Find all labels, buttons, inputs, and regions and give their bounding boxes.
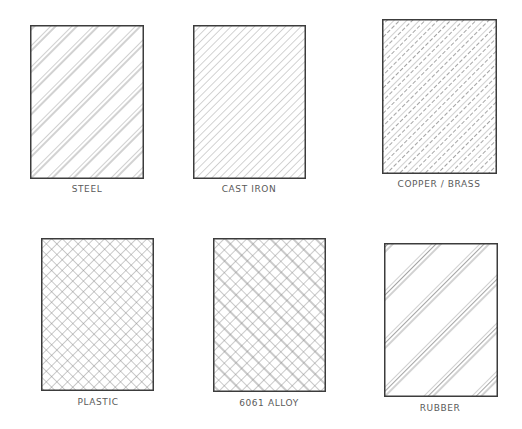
label-copper-brass: COPPER / BRASS — [398, 179, 481, 189]
label-6061-alloy: 6061 ALLOY — [239, 398, 299, 408]
label-rubber: RUBBER — [420, 403, 461, 413]
swatch-copper-brass — [382, 19, 497, 174]
swatch-6061-alloy — [213, 238, 326, 392]
steel-hatch-pattern — [30, 25, 144, 179]
label-steel: STEEL — [72, 184, 103, 194]
copper-brass-hatch-pattern — [382, 19, 497, 174]
swatch-cast-iron — [193, 25, 306, 179]
alloy-hatch-pattern — [213, 238, 326, 392]
swatch-plastic — [41, 238, 154, 391]
rubber-hatch-pattern — [384, 243, 498, 397]
swatch-steel — [30, 25, 144, 179]
label-plastic: PLASTIC — [77, 397, 118, 407]
swatch-rubber — [384, 243, 498, 397]
label-cast-iron: CAST IRON — [222, 184, 277, 194]
plastic-hatch-pattern — [41, 238, 154, 391]
cast-iron-hatch-pattern — [193, 25, 306, 179]
